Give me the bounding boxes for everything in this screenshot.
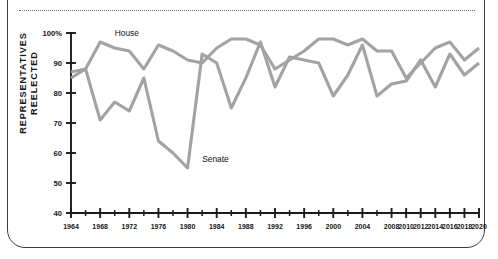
- y-tick-label: 90: [54, 59, 62, 68]
- x-tick-label: 2010: [398, 223, 414, 230]
- x-tick-label: 2016: [442, 223, 458, 230]
- x-tick-label: 2008: [384, 223, 400, 230]
- chart-figure: REPRESENTATIVES REELECTED House Senate 1…: [0, 0, 498, 259]
- x-tick-label: 2020: [471, 223, 487, 230]
- x-tick-label: 1964: [63, 223, 79, 230]
- x-tick-label: 1972: [121, 223, 137, 230]
- x-tick-label: 1968: [92, 223, 108, 230]
- x-tick-label: 2014: [427, 223, 443, 230]
- x-tick-label: 2018: [457, 223, 473, 230]
- y-tick-label: 80: [54, 89, 62, 98]
- y-tick-label: 40: [54, 209, 62, 218]
- y-tick-label: 70: [54, 119, 62, 128]
- x-tick-label: 1996: [296, 223, 312, 230]
- x-tick-label: 2012: [413, 223, 429, 230]
- y-axis-tick-labels: 100%908070605040: [43, 29, 63, 218]
- y-tick-label: 50: [54, 179, 62, 188]
- senate-series-label: Senate: [202, 154, 229, 164]
- y-tick-label: 60: [54, 149, 62, 158]
- chart-svg: House Senate 100%908070605040 1964196819…: [0, 0, 498, 259]
- x-tick-label: 1984: [209, 223, 225, 230]
- x-tick-label: 1980: [180, 223, 196, 230]
- x-tick-label: 2004: [355, 223, 371, 230]
- x-tick-label: 1976: [151, 223, 167, 230]
- y-tick-label: 100%: [43, 29, 63, 38]
- house-series-label: House: [115, 28, 140, 38]
- house-line: [71, 39, 479, 78]
- senate-line: [71, 42, 479, 168]
- x-tick-label: 2000: [325, 223, 341, 230]
- x-axis-tick-labels: 1964196819721976198019841988199219962000…: [63, 223, 487, 230]
- x-tick-label: 1992: [267, 223, 283, 230]
- x-tick-label: 1988: [238, 223, 254, 230]
- plot-area: House Senate 100%908070605040 1964196819…: [0, 0, 498, 259]
